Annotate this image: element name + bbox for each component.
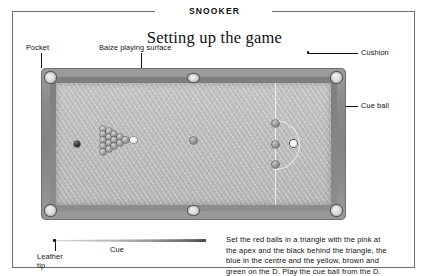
- caption-line-3: blue in the centre and the yellow, brown…: [226, 256, 419, 267]
- leader-cushion: [308, 53, 358, 54]
- pocket-bottom-middle: [188, 206, 199, 215]
- snooker-table: [41, 68, 346, 220]
- label-pocket: Pocket: [26, 43, 49, 52]
- green-ball: [272, 161, 279, 168]
- label-cue-ball: Cue ball: [361, 101, 389, 110]
- red-ball: [122, 137, 128, 143]
- page-title: Setting up the game: [13, 28, 416, 48]
- leader-dot-cushion: [307, 51, 310, 54]
- caption-line-1: Set the red balls in a triangle with the…: [226, 235, 419, 246]
- brown-ball: [272, 141, 279, 148]
- leader-leather-tip: [55, 242, 56, 251]
- pocket-bottom-left: [45, 205, 56, 216]
- pocket-top-right: [331, 72, 342, 83]
- label-baize: Baize playing surface: [99, 43, 171, 52]
- pocket-top-left: [45, 72, 56, 83]
- page-panel: SNOOKER Setting up the game Pocket Baize…: [12, 11, 415, 268]
- caption-block: Set the red balls in a triangle with the…: [226, 235, 419, 276]
- blue-ball: [190, 137, 197, 144]
- pocket-bottom-right: [331, 205, 342, 216]
- label-leather-tip-line2: tip: [37, 261, 45, 270]
- pocket-top-middle: [188, 74, 199, 83]
- label-cushion: Cushion: [361, 48, 389, 57]
- caption-line-2: the apex and the black behind the triang…: [226, 246, 419, 257]
- yellow-ball: [272, 120, 279, 127]
- table-baize: [56, 83, 331, 205]
- label-leather-tip-line1: Leather: [37, 252, 63, 261]
- leader-pocket: [41, 53, 42, 68]
- caption-line-4: green on the D. Play the cue ball from t…: [226, 267, 419, 276]
- section-kicker: SNOOKER: [13, 4, 416, 18]
- pink-ball: [130, 137, 137, 144]
- black-ball: [74, 141, 80, 147]
- cue-shaft: [56, 239, 206, 242]
- label-cue: Cue: [110, 245, 124, 254]
- cue-stick: [53, 239, 206, 242]
